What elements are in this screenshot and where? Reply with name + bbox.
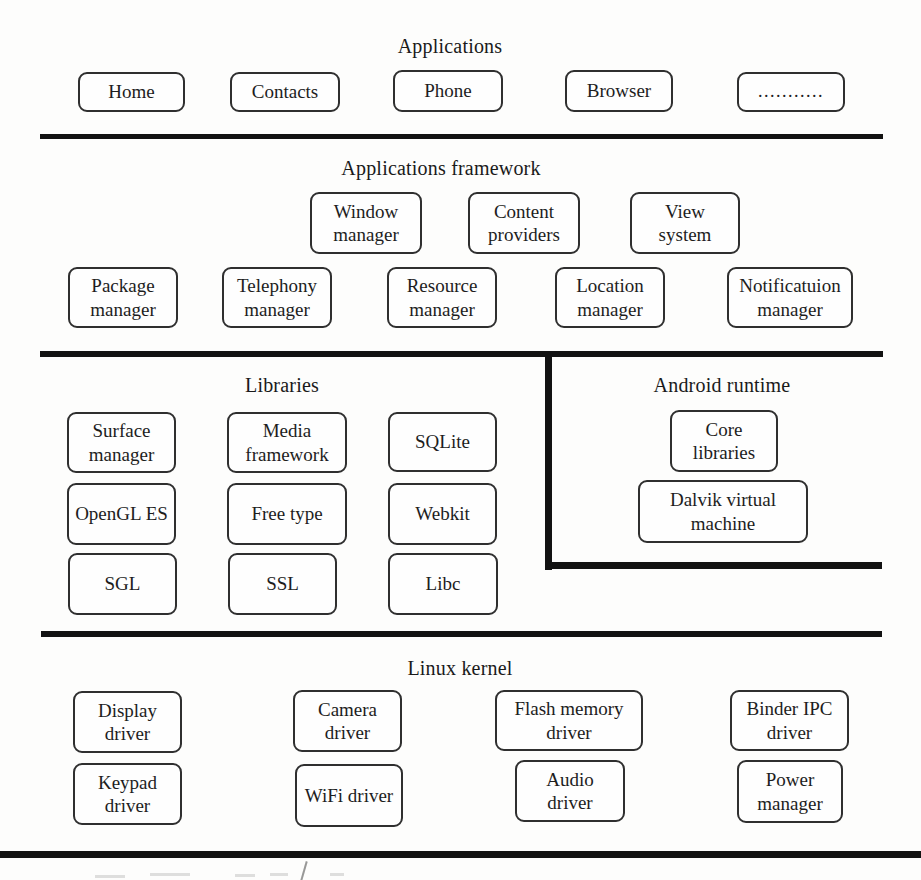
- lib-box-free-type: Free type: [227, 483, 347, 545]
- lib-box-sgl: SGL: [68, 553, 177, 615]
- framework-section-title: Applications framework: [291, 157, 591, 180]
- framework-box-telephony-manager: Telephony manager: [222, 267, 332, 328]
- layer-divider-applications: [40, 134, 883, 139]
- kernel-box-power-manager: Power manager: [737, 760, 843, 823]
- framework-box-resource-manager: Resource manager: [387, 267, 497, 328]
- framework-box-window-manager: Window manager: [310, 192, 422, 254]
- app-box-contacts: Contacts: [230, 72, 340, 112]
- kernel-box-display-driver: Display driver: [73, 691, 182, 753]
- app-box-phone: Phone: [393, 70, 503, 112]
- runtime-left-divider: [545, 351, 552, 570]
- app-box-browser: Browser: [565, 70, 673, 112]
- lib-box-media-framework: Media framework: [227, 412, 347, 473]
- kernel-box-binder-ipc-driver: Binder IPC driver: [730, 690, 849, 751]
- kernel-box-wifi-driver: WiFi driver: [295, 764, 403, 827]
- runtime-box-core-libraries: Core libraries: [670, 410, 778, 472]
- lib-box-opengl-es: OpenGL ES: [67, 483, 176, 545]
- lib-box-ssl: SSL: [228, 553, 337, 615]
- runtime-section-title: Android runtime: [622, 374, 822, 397]
- framework-box-package-manager: Package manager: [68, 267, 178, 328]
- framework-box-location-manager: Location manager: [555, 267, 665, 328]
- layer-divider-bottom: [0, 851, 921, 858]
- app-box-ellipsis: ...........: [737, 72, 845, 112]
- android-architecture-diagram: Applications Home Contacts Phone Browser…: [0, 0, 921, 880]
- layer-divider-libraries: [41, 631, 882, 637]
- lib-box-sqlite: SQLite: [388, 412, 497, 472]
- lib-box-webkit: Webkit: [388, 483, 497, 545]
- runtime-bottom-divider: [548, 562, 882, 569]
- lib-box-surface-manager: Surface manager: [67, 412, 176, 473]
- kernel-box-camera-driver: Camera driver: [293, 690, 402, 752]
- kernel-section-title: Linux kernel: [360, 657, 560, 680]
- framework-box-notification-manager: Notificatuion manager: [727, 267, 853, 328]
- kernel-box-keypad-driver: Keypad driver: [73, 763, 182, 825]
- libraries-section-title: Libraries: [182, 374, 382, 397]
- kernel-box-flash-memory-driver: Flash memory driver: [495, 690, 643, 751]
- app-box-home: Home: [78, 72, 185, 112]
- applications-section-title: Applications: [350, 35, 550, 58]
- runtime-box-dalvik-vm: Dalvik virtual machine: [638, 480, 808, 543]
- framework-box-content-providers: Content providers: [468, 192, 580, 254]
- lib-box-libc: Libc: [388, 553, 498, 615]
- framework-box-view-system: View system: [630, 192, 740, 254]
- layer-divider-framework: [40, 351, 883, 357]
- kernel-box-audio-driver: Audio driver: [515, 760, 625, 822]
